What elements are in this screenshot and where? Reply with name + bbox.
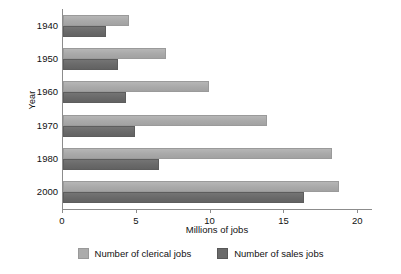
y-axis-tick-labels: 194019501960197019802000 [14,9,58,209]
bar-sales-1940[interactable] [63,26,106,37]
bar-clerical-1980[interactable] [63,148,332,159]
bar-clerical-1940[interactable] [63,15,129,26]
legend-item-clerical[interactable]: Number of clerical jobs [78,248,192,259]
y-tick-label-1970: 1970 [18,120,58,131]
y-tick-label-1950: 1950 [18,53,58,64]
bar-clerical-1970[interactable] [63,115,267,126]
bar-sales-1960[interactable] [63,92,126,103]
y-tick-label-1980: 1980 [18,153,58,164]
legend-item-sales[interactable]: Number of sales jobs [217,248,323,259]
chart-legend: Number of clerical jobsNumber of sales j… [0,248,401,259]
x-axis-title: Millions of jobs [62,224,372,235]
legend-swatch-sales-icon [217,248,228,259]
bar-sales-2000[interactable] [63,192,304,203]
y-tick-label-1960: 1960 [18,86,58,97]
x-tick-15 [283,209,284,213]
x-tick-10 [210,209,211,213]
legend-swatch-clerical-icon [78,248,89,259]
x-tick-5 [136,209,137,213]
bar-clerical-1960[interactable] [63,81,209,92]
bar-clerical-1950[interactable] [63,48,166,59]
bar-sales-1970[interactable] [63,126,135,137]
legend-label: Number of sales jobs [234,248,323,259]
bar-chart-figure: Year 194019501960197019802000 05101520 M… [0,0,401,274]
legend-label: Number of clerical jobs [95,248,192,259]
y-tick-label-1940: 1940 [18,20,58,31]
x-tick-20 [357,209,358,213]
bar-clerical-2000[interactable] [63,181,339,192]
x-tick-0 [62,209,63,213]
y-axis-line [62,9,63,209]
y-tick-label-2000: 2000 [18,186,58,197]
plot-area: 05101520 [62,9,372,209]
bar-sales-1950[interactable] [63,59,118,70]
x-axis-line [62,209,372,210]
bar-sales-1980[interactable] [63,159,159,170]
